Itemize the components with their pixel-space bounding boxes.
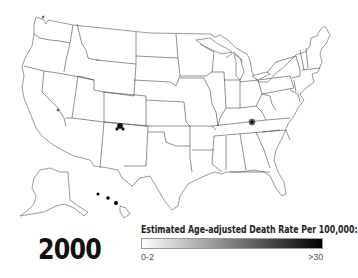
legend-gradient-bar <box>141 238 323 249</box>
hawaii-inset <box>97 193 131 219</box>
hotspot-ky-tn <box>249 119 255 125</box>
us-map <box>0 0 344 230</box>
alaska-inset <box>20 168 88 216</box>
legend-max-label: >30 <box>308 252 323 262</box>
legend-title: Estimated Age-adjusted Death Rate Per 10… <box>141 224 358 235</box>
hotspot-nevada <box>57 109 59 111</box>
legend-min-label: 0-2 <box>141 252 154 262</box>
hotspot-washington <box>42 16 44 18</box>
year-label: 2000 <box>38 232 101 266</box>
